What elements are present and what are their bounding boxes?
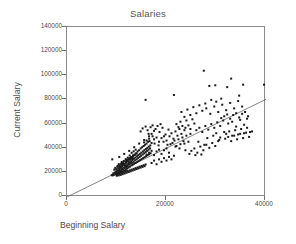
y-tick-label: 120000: [20, 47, 62, 53]
y-tick-label: 140000: [20, 23, 62, 29]
y-axis-title: Current Salary: [12, 62, 22, 158]
y-tick-label: 60000: [20, 120, 62, 126]
y-tick-label: 100000: [20, 71, 62, 77]
chart-title: Salaries: [0, 8, 296, 19]
x-tick-label: 20000: [135, 201, 195, 207]
plot-area: [66, 26, 265, 196]
data-points: [111, 70, 265, 177]
y-tick-label: 20000: [20, 168, 62, 174]
y-tick-label: 40000: [20, 144, 62, 150]
x-tick-label: 40000: [234, 201, 294, 207]
y-tick-label: 80000: [20, 95, 62, 101]
y-tick-label: 0: [20, 192, 62, 198]
plot-canvas: [67, 27, 266, 197]
scatter-chart: Salaries 140000 120000 100000 80000 6000…: [0, 0, 296, 244]
x-tick-label: 0: [36, 201, 96, 207]
x-axis-title: Beginning Salary: [60, 220, 125, 230]
